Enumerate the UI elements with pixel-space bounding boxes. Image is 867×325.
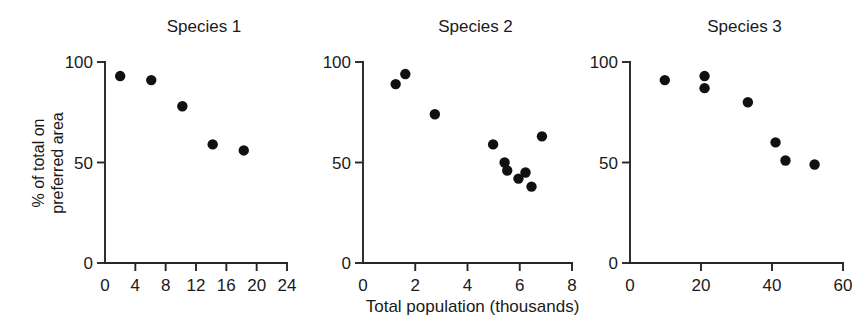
panel-title: Species 2 <box>438 17 513 36</box>
panel-3: Species 30501000204060 <box>590 17 853 295</box>
y-tick-label: 100 <box>590 53 618 72</box>
y-tick-label: 0 <box>609 254 618 273</box>
x-tick-label: 0 <box>358 276 367 295</box>
x-tick-label: 0 <box>100 276 109 295</box>
y-tick-label: 100 <box>65 53 93 72</box>
axis-lines <box>363 62 572 263</box>
x-tick-label: 24 <box>278 276 297 295</box>
x-tick-label: 12 <box>187 276 206 295</box>
figure-container: Species 105010004812162024Species 205010… <box>0 0 867 325</box>
x-tick-label: 4 <box>131 276 140 295</box>
x-tick-label: 8 <box>161 276 170 295</box>
data-point <box>177 101 187 111</box>
data-point <box>390 79 400 89</box>
x-tick-label: 2 <box>411 276 420 295</box>
data-point <box>502 165 512 175</box>
x-tick-label: 4 <box>463 276 472 295</box>
data-point <box>743 97 753 107</box>
x-tick-label: 0 <box>625 276 634 295</box>
data-point <box>699 83 709 93</box>
data-point <box>430 109 440 119</box>
x-axis-caption: Total population (thousands) <box>366 297 580 316</box>
x-tick-label: 20 <box>692 276 711 295</box>
y-axis-caption-line1: % of total on <box>30 119 47 208</box>
x-tick-label: 16 <box>217 276 236 295</box>
data-point <box>400 69 410 79</box>
axis-lines <box>105 62 287 263</box>
data-point <box>520 167 530 177</box>
x-tick-label: 20 <box>247 276 266 295</box>
y-tick-label: 50 <box>599 154 618 173</box>
panel-title: Species 1 <box>167 17 242 36</box>
x-tick-label: 40 <box>763 276 782 295</box>
y-tick-label: 0 <box>84 254 93 273</box>
y-axis-caption: % of total onpreferred area <box>30 112 66 213</box>
scatter-panels-svg: Species 105010004812162024Species 205010… <box>0 0 867 325</box>
y-tick-label: 50 <box>74 154 93 173</box>
data-point <box>239 145 249 155</box>
y-tick-label: 0 <box>342 254 351 273</box>
data-point <box>146 75 156 85</box>
panel-2: Species 205010002468 <box>323 17 577 295</box>
data-point <box>207 139 217 149</box>
x-tick-label: 8 <box>567 276 576 295</box>
data-point <box>770 137 780 147</box>
data-point <box>115 71 125 81</box>
y-tick-label: 100 <box>323 53 351 72</box>
data-point <box>809 159 819 169</box>
panel-1: Species 105010004812162024 <box>65 17 297 295</box>
data-point <box>699 71 709 81</box>
data-point <box>780 155 790 165</box>
data-point <box>488 139 498 149</box>
y-tick-label: 50 <box>332 154 351 173</box>
x-tick-label: 60 <box>834 276 853 295</box>
y-axis-caption-line2: preferred area <box>49 112 66 213</box>
panel-title: Species 3 <box>707 17 782 36</box>
data-point <box>537 131 547 141</box>
data-point <box>526 181 536 191</box>
data-point <box>660 75 670 85</box>
x-tick-label: 6 <box>515 276 524 295</box>
